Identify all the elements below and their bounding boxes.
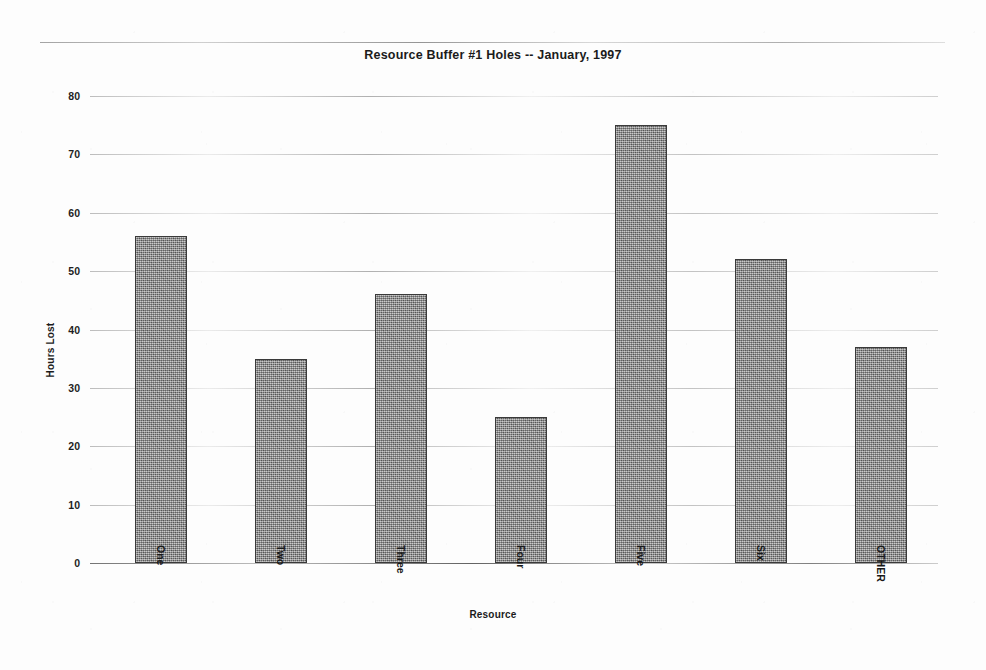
bar-five: [615, 125, 667, 563]
x-axis-tick-label: Six: [755, 545, 767, 597]
y-axis-tick-label: 70: [68, 148, 80, 160]
bar-two: [255, 359, 307, 563]
y-axis-tick-label: 50: [68, 265, 80, 277]
x-axis-tick-label: Four: [515, 545, 527, 597]
y-axis-tick-label: 30: [68, 382, 80, 394]
gridline: 70: [90, 154, 938, 155]
chart-title: Resource Buffer #1 Holes -- January, 199…: [0, 48, 986, 62]
x-axis-baseline: 0: [90, 563, 938, 564]
x-axis-tick-label: Two: [275, 545, 287, 597]
bar-other: [855, 347, 907, 563]
bar-four: [495, 417, 547, 563]
x-axis-tick-label: OTHER: [875, 545, 887, 597]
bar-three: [375, 294, 427, 563]
y-axis-tick-label: 10: [68, 499, 80, 511]
gridline: 40: [90, 330, 938, 331]
gridline: 50: [90, 271, 938, 272]
gridline: 80: [90, 96, 938, 97]
bar-one: [135, 236, 187, 563]
y-axis-tick-label: 40: [68, 324, 80, 336]
x-axis-tick-label: Three: [395, 545, 407, 597]
plot-area: 80706050403020100OneTwoThreeFourFiveSixO…: [90, 96, 938, 563]
gridline: 30: [90, 388, 938, 389]
y-axis-tick-label: 20: [68, 440, 80, 452]
y-axis-tick-label: 60: [68, 207, 80, 219]
y-axis-title: Hours Lost: [45, 323, 56, 378]
x-axis-tick-label: One: [155, 545, 167, 597]
y-axis-tick-label: 0: [74, 557, 80, 569]
x-axis-tick-label: Five: [635, 545, 647, 597]
top-border-rule: [40, 42, 945, 43]
chart-page: Resource Buffer #1 Holes -- January, 199…: [0, 0, 986, 670]
x-axis-title: Resource: [0, 609, 986, 620]
bar-six: [735, 259, 787, 563]
y-axis-tick-label: 80: [68, 90, 80, 102]
gridline: 60: [90, 213, 938, 214]
